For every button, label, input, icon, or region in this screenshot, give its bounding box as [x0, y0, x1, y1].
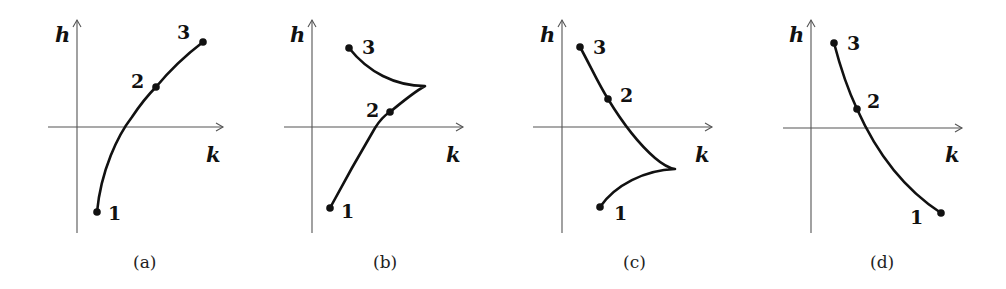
point-1 — [937, 209, 945, 217]
k-axis-label: k — [446, 142, 461, 167]
point-3-label: 3 — [593, 36, 606, 58]
panel-a: h k 1 2 3 (a) — [48, 20, 223, 272]
point-2-label: 2 — [366, 99, 379, 121]
point-1-label: 1 — [910, 206, 923, 228]
point-2 — [853, 105, 861, 113]
h-axis-label: h — [540, 22, 555, 47]
caption-b: (b) — [373, 252, 397, 272]
point-2-label: 2 — [867, 90, 880, 112]
curve — [330, 48, 425, 208]
point-3-label: 3 — [362, 36, 375, 58]
point-3 — [576, 43, 584, 51]
caption-c: (c) — [623, 252, 646, 272]
point-1-label: 1 — [614, 202, 627, 224]
point-2 — [604, 95, 612, 103]
caption-d: (d) — [870, 252, 894, 272]
h-axis-label: h — [290, 22, 305, 47]
point-3-label: 3 — [847, 32, 860, 54]
point-3 — [345, 44, 353, 52]
point-3 — [830, 39, 838, 47]
point-2-label: 2 — [131, 70, 144, 92]
point-1 — [93, 208, 101, 216]
point-1-label: 1 — [108, 202, 121, 224]
figure-canvas: h k 1 2 3 (a) h k 1 2 3 (b) h k 1 2 — [0, 0, 1006, 289]
point-2-label: 2 — [620, 84, 633, 106]
h-axis-label: h — [55, 22, 70, 47]
point-3-label: 3 — [177, 21, 190, 43]
h-axis-label: h — [789, 22, 804, 47]
point-2 — [152, 83, 160, 91]
panel-b: h k 1 2 3 (b) — [284, 20, 463, 272]
point-1 — [596, 203, 604, 211]
point-3 — [199, 38, 207, 46]
point-1-label: 1 — [341, 200, 354, 222]
panel-d: h k 1 2 3 (d) — [783, 20, 962, 272]
point-2 — [386, 108, 394, 116]
k-axis-label: k — [206, 142, 221, 167]
point-1 — [326, 204, 334, 212]
caption-a: (a) — [133, 252, 156, 272]
k-axis-label: k — [695, 142, 710, 167]
panel-c: h k 1 2 3 (c) — [533, 20, 712, 272]
k-axis-label: k — [945, 142, 960, 167]
